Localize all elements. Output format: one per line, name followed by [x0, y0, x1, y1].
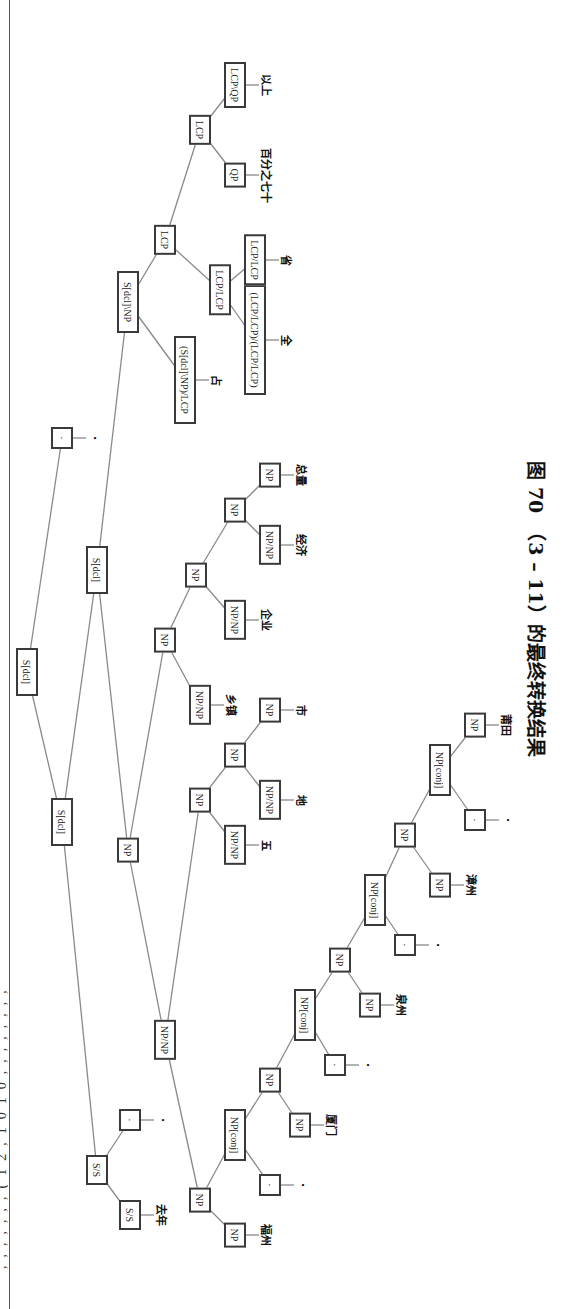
leaf-word: ·	[296, 1183, 309, 1187]
category-node: NP/NP	[224, 825, 246, 865]
category-node: NP	[189, 1188, 211, 1213]
category-node: NP/NP	[259, 525, 281, 565]
leaf-word: 百分之七十	[259, 148, 275, 203]
category-node: (S[dcl]\NP)/LCP	[174, 336, 196, 424]
leaf-word: ·	[431, 943, 444, 947]
tree-edge	[97, 570, 128, 850]
leaf-word: 经济	[294, 534, 310, 556]
category-node: NP[conj]	[224, 1109, 246, 1161]
category-node: QP	[224, 163, 246, 188]
leaf-word: 漳州	[464, 874, 480, 896]
tree-edge	[128, 850, 165, 1040]
category-node: ·	[464, 809, 486, 831]
category-node: (LCP/LCP)/(LCP/LCP)	[244, 285, 266, 395]
leaf-word: 总量	[294, 464, 310, 486]
leaf-word: 市	[294, 705, 310, 716]
category-node: NP	[259, 1068, 281, 1093]
category-node: NP/NP	[224, 600, 246, 640]
category-node: ·	[259, 1174, 281, 1196]
category-node: LCP\QP	[224, 62, 246, 108]
category-node: NP[conj]	[294, 989, 316, 1041]
tree-edge	[62, 570, 97, 822]
leaf-word: 厦门	[324, 1114, 340, 1136]
category-node: NP	[259, 698, 281, 723]
category-node: NP	[154, 628, 176, 653]
leaf-word: 以上	[259, 74, 275, 96]
category-node: NP	[429, 873, 451, 898]
tree-edge	[165, 130, 200, 240]
tree-edge	[62, 822, 97, 1170]
category-node: NP	[464, 713, 486, 738]
category-node: NP/NP	[259, 780, 281, 820]
tree-edges	[0, 0, 562, 1309]
category-node: LCP	[189, 115, 211, 145]
leaf-word: 五	[259, 840, 275, 851]
category-node: LCP/LCP	[209, 264, 231, 315]
category-node: S/S	[86, 1155, 108, 1185]
category-node: S[dcl]	[86, 546, 108, 594]
leaf-word: 泉州	[394, 994, 410, 1016]
leaf-word: 企业	[259, 609, 275, 631]
tree-edge	[165, 800, 200, 1040]
category-node: NP	[259, 463, 281, 488]
tree-edge	[128, 640, 165, 850]
category-node: NP	[189, 788, 211, 813]
leaf-word: ·	[501, 818, 514, 822]
leaf-word: 占	[209, 375, 225, 386]
category-node: S[dcl]	[16, 648, 38, 696]
category-node: S/S	[119, 1200, 141, 1230]
category-node: S[dcl]	[51, 798, 73, 846]
leaf-word: ·	[88, 436, 101, 440]
category-node: ·	[119, 1109, 141, 1131]
category-node: NP	[224, 498, 246, 523]
leaf-word: 乡镇	[224, 694, 240, 716]
tree-edge	[97, 302, 128, 570]
category-node: NP[conj]	[364, 874, 386, 926]
leaf-word: 地	[294, 795, 310, 806]
tree-edge	[165, 1040, 200, 1200]
category-node: NP/NP	[154, 1020, 176, 1060]
category-node: NP	[224, 1223, 246, 1248]
tree-edge	[27, 438, 62, 672]
leaf-word: ·	[361, 1063, 374, 1067]
leaf-word: 省	[279, 255, 295, 266]
category-node: NP	[185, 563, 207, 588]
leaf-word: 福州	[259, 1224, 275, 1246]
leaf-word: 去年	[154, 1204, 170, 1226]
category-node: S[dcl]\NP	[117, 271, 139, 333]
category-node: LCP/LCP	[244, 234, 266, 285]
category-node: NP	[117, 838, 139, 863]
category-node: NP	[289, 1113, 311, 1138]
category-node: LCP	[154, 225, 176, 255]
rotated-page: ,,,,,,,(12,1010,,,,,,,, S[dcl]S[dcl]·S/S…	[0, 0, 562, 1309]
category-node: ·	[394, 934, 416, 956]
leaf-word: 莆田	[499, 714, 515, 736]
category-node: NP/NP	[189, 685, 211, 725]
leaf-word: 全	[279, 335, 295, 346]
figure-caption: 图 70 （3 – 11）的最终转换结果	[524, 461, 551, 756]
category-node: NP	[224, 743, 246, 768]
category-node: NP	[394, 823, 416, 848]
category-node: NP	[329, 948, 351, 973]
category-node: NP	[359, 993, 381, 1018]
category-node: NP[conj]	[429, 744, 451, 796]
leaf-word: ·	[156, 1118, 169, 1122]
category-node: ·	[324, 1054, 346, 1076]
category-node: ·	[51, 427, 73, 449]
